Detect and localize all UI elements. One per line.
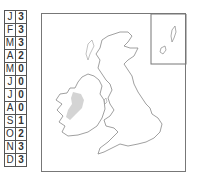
month-label: M — [5, 37, 16, 50]
month-value: 0 — [16, 102, 27, 115]
monthly-occurrence-table: J3 F3 M3 A2 M0 J0 J0 A0 S1 O2 N3 D3 — [4, 10, 27, 167]
month-value: 3 — [16, 154, 27, 167]
month-label: A — [5, 50, 16, 63]
british-isles-map — [41, 13, 186, 172]
month-label: F — [5, 24, 16, 37]
month-value: 1 — [16, 115, 27, 128]
month-value: 3 — [16, 24, 27, 37]
month-label: N — [5, 141, 16, 154]
month-label: J — [5, 11, 16, 24]
table-row: A0 — [5, 102, 27, 115]
table-row: A2 — [5, 50, 27, 63]
table-row: M3 — [5, 37, 27, 50]
month-label: O — [5, 128, 16, 141]
map-outline-icon — [42, 14, 187, 173]
month-label: J — [5, 89, 16, 102]
hebrides-islands — [86, 40, 94, 60]
table-row: J0 — [5, 89, 27, 102]
table-row: N3 — [5, 141, 27, 154]
month-value: 3 — [16, 37, 27, 50]
month-value: 2 — [16, 128, 27, 141]
inset-box — [151, 14, 186, 64]
month-label: J — [5, 76, 16, 89]
table-row: M0 — [5, 63, 27, 76]
month-label: D — [5, 154, 16, 167]
month-label: S — [5, 115, 16, 128]
table-row: J3 — [5, 11, 27, 24]
month-value: 0 — [16, 76, 27, 89]
shetland-island — [171, 26, 176, 42]
table-row: F3 — [5, 24, 27, 37]
table-row: J0 — [5, 76, 27, 89]
table-row: D3 — [5, 154, 27, 167]
month-value: 0 — [16, 63, 27, 76]
great-britain-outline — [96, 32, 162, 154]
month-label: A — [5, 102, 16, 115]
month-label: M — [5, 63, 16, 76]
month-value: 0 — [16, 89, 27, 102]
month-value: 3 — [16, 11, 27, 24]
table-row: O2 — [5, 128, 27, 141]
month-value: 2 — [16, 50, 27, 63]
table-row: S1 — [5, 115, 27, 128]
month-value: 3 — [16, 141, 27, 154]
orkney-island — [160, 46, 166, 54]
